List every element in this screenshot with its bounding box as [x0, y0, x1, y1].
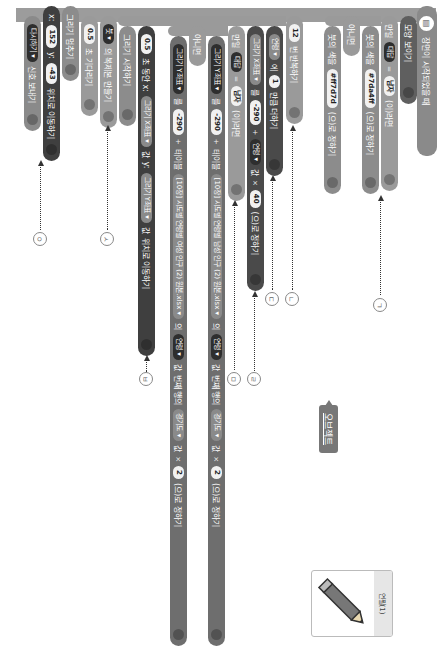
script-canvas: ▤ 장면이 시작되었을 때 모양 보이기 만일 대답 = 남자 (이)라면 붓의… [0, 0, 443, 652]
circle-label: ㅅ [100, 232, 114, 246]
arrow-label-4 [254, 296, 255, 371]
table-dropdown[interactable]: [10장] 시도별 연령별 여성 인구 (2) 원본.xlsx ▾ [173, 174, 184, 319]
variable-icon [173, 629, 184, 640]
number-value[interactable]: 2 [211, 466, 222, 479]
block-label: 번째 행의 [173, 375, 184, 406]
repeat-count[interactable]: 12 [289, 24, 300, 42]
duration-value[interactable]: 0.5 [141, 34, 152, 54]
arrow-label-8 [40, 165, 41, 230]
block-label: 장면이 시작되었을 때 [422, 37, 433, 105]
plus-op: + [213, 139, 221, 145]
block-when-scene-starts[interactable]: ▤ 장면이 시작되었을 때 [417, 6, 437, 156]
x-variable[interactable]: 그리기 X좌표 ▾ [141, 96, 152, 147]
object-card[interactable]: 연필(1) [311, 570, 393, 637]
block-label: 값 [173, 445, 184, 452]
clone-target-dropdown[interactable]: 붓 ▾ [103, 24, 114, 44]
block-set-x-variable[interactable]: 그리기 X좌표 ▾ 를 -290 + 연령 ▾ 값 × 40 (으)로 정하기 [247, 26, 264, 291]
flow-icon [103, 111, 114, 122]
variable-dropdown[interactable]: 그리기 Y좌표 ▾ [211, 44, 222, 94]
block-move-to-xy[interactable]: x: 152 y: -43 위치로 이동하기 [43, 6, 60, 161]
block-label: 위치로 이동하기 [46, 88, 57, 140]
plus-op: + [252, 129, 260, 135]
equals-op: = [386, 66, 394, 72]
arrow-label-1 [380, 200, 381, 295]
answer-reporter[interactable]: 대답 [231, 52, 242, 72]
row-variable[interactable]: 연령 ▾ [211, 334, 222, 360]
number-value[interactable]: 2 [173, 466, 184, 479]
block-label: 붓의 색을 [365, 34, 376, 65]
block-label: y: [142, 162, 151, 169]
pencil-icon [312, 571, 374, 636]
block-label: 위치로 이동하기 [141, 238, 152, 290]
number-value[interactable]: -290 [250, 100, 261, 126]
block-label: (이)라면 [231, 110, 242, 137]
block-stop-drawing[interactable]: 그리기 멈추기 [62, 6, 79, 81]
block-label: 값 [211, 364, 222, 371]
block-add-variable[interactable]: 연령 ▾ 에 1 만큼 더하기 [266, 26, 283, 176]
block-glide-to[interactable]: 0.5 초 동안 x: 그리기 X좌표 ▾ 값 y: 그리기 Y좌표 ▾ 값 위… [138, 26, 155, 356]
block-label: 초 기다리기 [84, 48, 95, 86]
block-set-brush-color-1[interactable]: 붓의 색을 #7da4ff (으)로 정하기 [362, 26, 379, 194]
variable-dropdown[interactable]: 그리기 X좌표 ▾ [250, 34, 261, 85]
block-label: 의 [211, 323, 222, 330]
table-dropdown[interactable]: [10장] 시도별 연령별 남성 인구 (2) 원본.xlsx ▾ [211, 174, 222, 319]
compare-value[interactable]: 남자 [384, 76, 395, 96]
block-start-drawing[interactable]: 그리기 시작하기 [119, 26, 136, 126]
column-dropdown[interactable]: 경기도 ▾ [211, 409, 222, 441]
block-label: 를 [173, 98, 184, 105]
block-label: 값 [141, 227, 152, 234]
variable-dropdown[interactable]: 연령 ▾ [250, 139, 261, 165]
block-wait[interactable]: 0.5 초 기다리기 [81, 16, 98, 116]
color-value[interactable]: #ff7d7d [327, 69, 338, 108]
variable-dropdown[interactable]: 그리기 Y좌표 ▾ [173, 44, 184, 94]
number-value[interactable]: -290 [211, 109, 222, 135]
y-value[interactable]: -43 [46, 63, 57, 84]
block-label: 의 복제본 만들기 [103, 48, 114, 102]
block-if-2[interactable]: 만일 대답 = 남자 (이)라면 [228, 26, 245, 201]
compare-value[interactable]: 남자 [231, 86, 242, 106]
row-variable[interactable]: 연령 ▾ [173, 334, 184, 360]
y-variable[interactable]: 그리기 Y좌표 ▾ [141, 173, 152, 223]
circle-label: ㄴ [285, 292, 299, 306]
flow-icon [84, 99, 95, 110]
wait-seconds[interactable]: 0.5 [84, 24, 95, 44]
signal-dropdown[interactable]: 다시하기 ▾ [27, 24, 38, 62]
block-label: 그리기 시작하기 [122, 34, 133, 86]
block-else-2: 아니면 [189, 26, 206, 66]
block-label: 테이블 [173, 149, 184, 170]
block-repeat[interactable]: 12 번 반복하기 [286, 16, 303, 124]
block-set-brush-color-2[interactable]: 붓의 색을 #ff7d7d (으)로 정하기 [324, 26, 341, 194]
column-dropdown[interactable]: 경기도 ▾ [173, 409, 184, 441]
number-value[interactable]: -290 [173, 109, 184, 135]
move-icon [46, 144, 57, 155]
arrow-label-2 [292, 130, 293, 290]
color-value[interactable]: #7da4ff [365, 69, 376, 108]
block-set-y-male[interactable]: 그리기 Y좌표 ▾ 를 -290 + 테이블 [10장] 시도별 연령별 남성 … [208, 36, 225, 646]
block-label: 를 [250, 89, 261, 96]
number-value[interactable]: 40 [250, 190, 261, 208]
scene-start-icon: ▤ [418, 14, 437, 33]
block-label: (으)로 정하기 [250, 212, 261, 256]
block-label: 만큼 더하기 [269, 92, 280, 130]
block-label: 번째 행의 [211, 375, 222, 406]
block-show[interactable]: 모양 보이기 [400, 16, 417, 104]
block-send-signal[interactable]: 다시하기 ▾ 신호 보내기 [24, 16, 41, 131]
equals-op: = [233, 76, 241, 82]
start-icon [27, 114, 38, 125]
block-label: 값 [250, 169, 261, 176]
block-label: 테이블 [211, 149, 222, 170]
block-label: 값 [173, 364, 184, 371]
variable-dropdown[interactable]: 연령 ▾ [269, 34, 280, 60]
block-set-y-female[interactable]: 그리기 Y좌표 ▾ 를 -290 + 테이블 [10장] 시도별 연령별 여성 … [170, 36, 187, 646]
circle-label: ㄱ [373, 298, 387, 312]
block-label: (으)로 정하기 [211, 483, 222, 527]
x-value[interactable]: 152 [46, 25, 57, 48]
block-if-1[interactable]: 만일 대답 = 남자 (이)라면 [381, 16, 398, 191]
answer-reporter[interactable]: 대답 [384, 42, 395, 62]
multiply-op: × [252, 180, 260, 186]
increment-value[interactable]: 1 [269, 75, 280, 88]
flow-icon [384, 174, 395, 185]
block-create-clone[interactable]: 붓 ▾ 의 복제본 만들기 [100, 16, 117, 128]
else-keyword: 아니면 [192, 34, 203, 55]
block-else-1: 아니면 [343, 16, 360, 56]
